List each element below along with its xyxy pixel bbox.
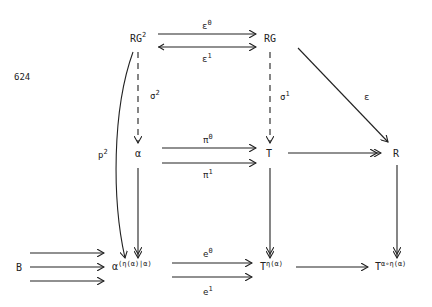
- node-rg-squared: RG2: [130, 31, 146, 44]
- page-number: 624: [14, 72, 30, 82]
- commutative-diagram: 624 RG2 RG α T R B α(η(α)|α) Tη(α) Tα∘η(…: [0, 0, 432, 307]
- node-t: T: [266, 148, 272, 159]
- label-eps0: ε0: [202, 19, 212, 31]
- label-pi0: π0: [203, 133, 213, 145]
- node-alpha: α: [135, 148, 141, 159]
- arrow-eps: [298, 48, 388, 142]
- node-b: B: [16, 262, 22, 273]
- label-eps: ε: [364, 92, 369, 102]
- label-sigma1: σ1: [280, 90, 290, 102]
- label-eps1: ε1: [202, 52, 212, 64]
- node-alpha-eta: α(η(α)|α): [112, 260, 152, 272]
- node-t-alpha-eta: Tα∘η(α): [375, 260, 406, 272]
- label-e0: e0: [203, 247, 213, 259]
- node-rg: RG: [264, 33, 276, 44]
- arrow-p2: [116, 52, 133, 258]
- node-t-eta: Tη(α): [260, 260, 283, 272]
- label-p2: p2: [98, 148, 108, 160]
- label-sigma2: σ2: [150, 89, 160, 101]
- label-e1: e1: [203, 285, 213, 297]
- label-pi1: π1: [203, 168, 213, 180]
- node-r: R: [393, 148, 400, 159]
